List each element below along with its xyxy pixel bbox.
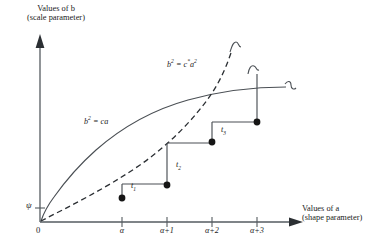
dashed-curve-path <box>41 50 232 221</box>
step-label-t1: t1 <box>131 181 136 190</box>
x-axis-title-line1: Values of a <box>302 204 388 213</box>
solid-curve-label-rest: = ca <box>91 117 108 126</box>
x-axis-title: Values of a (shape parameter) <box>302 204 388 223</box>
x-tick-label-alpha: α <box>112 226 132 235</box>
break-mark-solid-curve <box>285 81 296 89</box>
x-tick-label-alpha-plus-2: α+2 <box>198 226 226 235</box>
step-label-t2: t2 <box>176 160 181 169</box>
step-dot-t2 <box>164 182 171 189</box>
y-axis <box>36 34 45 222</box>
dashed-curve-label-mid: = c <box>174 60 187 69</box>
dashed-curve-label: b2 = c*a2 <box>167 60 197 69</box>
step-t3 <box>209 122 257 145</box>
step-t1 <box>119 184 167 201</box>
step-dot-t3 <box>209 139 216 146</box>
step-t2 <box>164 143 212 188</box>
x-axis-title-line2: (shape parameter) <box>302 213 388 222</box>
step-t4 <box>254 74 261 125</box>
x-tick-label-alpha-plus-3: α+3 <box>243 226 271 235</box>
step-label-t3-sub: 3 <box>223 130 226 136</box>
step-label-t2-sub: 2 <box>178 165 181 171</box>
step-dot-t4 <box>254 119 261 126</box>
step-dot-t1 <box>119 195 126 202</box>
y-axis-title-line1: Values of b <box>8 4 104 13</box>
solid-curve-path <box>41 87 286 221</box>
origin-label: 0 <box>36 226 40 236</box>
x-tick-label-alpha-plus-1: α+1 <box>153 226 181 235</box>
y-axis-title: Values of b (scale parameter) <box>8 4 104 23</box>
break-mark-dashed-curve <box>230 42 241 52</box>
y-axis-title-line2: (scale parameter) <box>8 13 104 22</box>
step-label-t3: t3 <box>221 125 226 134</box>
psi-label: ψ <box>26 200 32 210</box>
solid-curve-label: b2 = ca <box>84 117 108 126</box>
dashed-curve-label-tail-sup: 2 <box>194 58 197 64</box>
step-label-t1-sub: 1 <box>133 186 136 192</box>
break-mark-vertical-line <box>248 66 259 74</box>
